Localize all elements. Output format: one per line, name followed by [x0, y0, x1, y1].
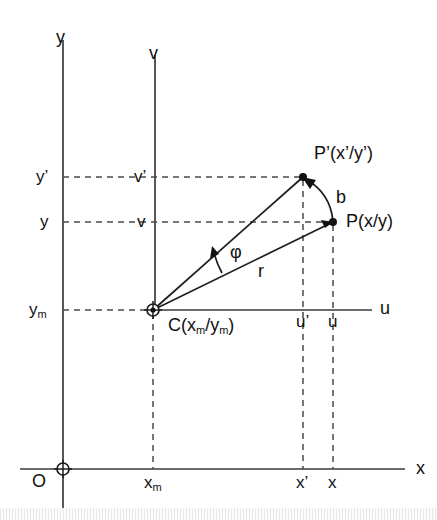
point-label-c: C(xm/ym): [168, 316, 234, 334]
tick-label-x: x: [328, 474, 337, 491]
tick-label-y-m-sub: m: [38, 308, 47, 320]
tick-label-u-prime: u’: [296, 313, 309, 330]
tick-label-y-m: ym: [29, 301, 47, 318]
axis-label-v: v: [149, 44, 158, 62]
tick-label-v-prime: v’: [134, 168, 146, 185]
segment-c-to-p-prime: [153, 177, 303, 310]
tick-label-x-prime: x’: [296, 474, 308, 491]
point-label-p-prime: P’(x’/y’): [314, 144, 373, 162]
segment-label-b: b: [336, 188, 346, 206]
point-marker-c-dot: [150, 307, 155, 312]
axis-label-u: u: [380, 299, 390, 317]
point-label-c-sub1: m: [196, 324, 205, 336]
point-label-c-tail: ): [228, 315, 234, 335]
axis-label-y: y: [56, 28, 65, 46]
point-marker-p: [329, 218, 337, 226]
tick-label-y-m-base: y: [29, 300, 38, 319]
geometry-diagram-svg: [0, 0, 437, 520]
tick-label-y: y: [40, 213, 49, 230]
segment-label-r: r: [258, 262, 264, 280]
axis-label-origin: O: [32, 472, 46, 490]
point-label-c-mid: /y: [205, 315, 219, 335]
tick-label-x-m-base: x: [144, 473, 153, 492]
tick-label-v: v: [137, 213, 146, 230]
tick-label-u: u: [328, 313, 337, 330]
point-label-c-head: C(x: [168, 315, 196, 335]
tick-label-x-m-sub: m: [153, 481, 162, 493]
angle-label-phi: φ: [230, 243, 242, 261]
axis-label-x: x: [416, 459, 425, 477]
tick-label-y-prime: y’: [36, 168, 48, 185]
segment-c-to-p: [153, 222, 333, 310]
bottom-edge-strip: [0, 508, 437, 520]
tick-label-x-m: xm: [144, 474, 162, 491]
point-label-p: P(x/y): [346, 212, 393, 230]
diagram-canvas: y v u x O y’ y ym v’ v u’ u xm x’ x P’(x…: [0, 0, 437, 520]
point-marker-p-prime: [299, 173, 307, 181]
point-label-c-sub2: m: [219, 324, 228, 336]
